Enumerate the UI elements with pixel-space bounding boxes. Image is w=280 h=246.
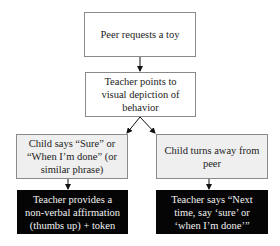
node-label: Teacher says “Next time, say ‘sure’ or ‘… xyxy=(163,193,261,232)
node-label: Teacher points to visual depiction of be… xyxy=(92,75,189,114)
node-label: Peer requests a toy xyxy=(100,28,179,41)
node-child-turns-away: Child turns away from peer xyxy=(156,134,268,179)
node-teacher-affirmation: Teacher provides a non-verbal affirmatio… xyxy=(17,190,128,234)
node-teacher-points-visual: Teacher points to visual depiction of be… xyxy=(85,72,196,117)
node-peer-requests-toy: Peer requests a toy xyxy=(84,12,196,57)
node-teacher-prompt: Teacher says “Next time, say ‘sure’ or ‘… xyxy=(156,190,268,234)
arrow-teacher-points-to-child-sure xyxy=(127,117,140,133)
node-label: Child turns away from peer xyxy=(163,144,261,170)
node-child-says-sure: Child says “Sure” or “When I’m done” (or… xyxy=(16,134,128,179)
node-label: Teacher provides a non-verbal affirmatio… xyxy=(24,193,121,232)
node-label: Child says “Sure” or “When I’m done” (or… xyxy=(23,137,121,176)
arrow-teacher-points-to-child-turns xyxy=(140,117,155,133)
